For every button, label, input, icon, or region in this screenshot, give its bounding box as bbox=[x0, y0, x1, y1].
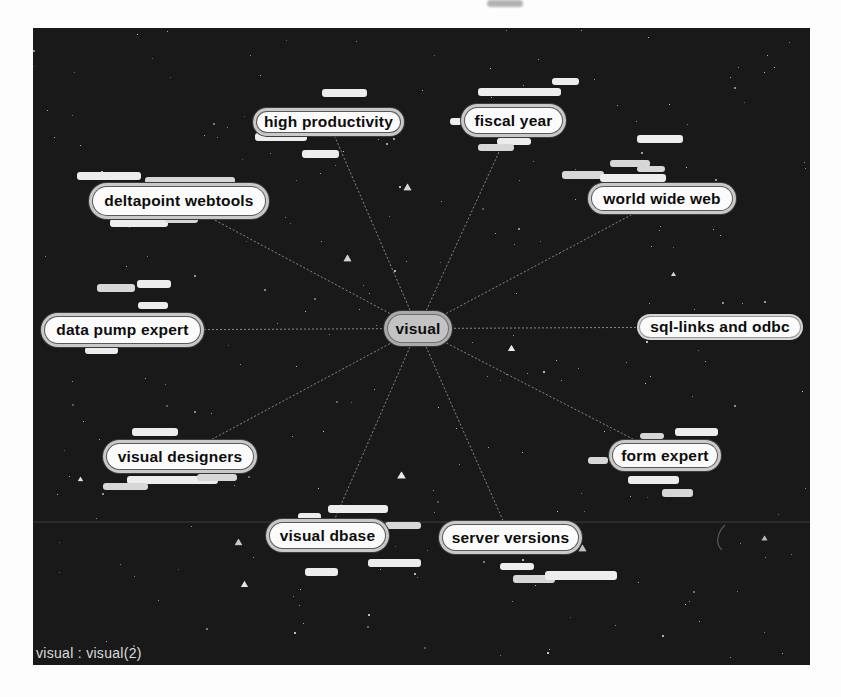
node-deltapoint-webtools[interactable]: deltapoint webtools bbox=[93, 187, 265, 215]
screenshot-root: { "window": { "status_text": "visual : v… bbox=[0, 0, 841, 697]
node-form-expert[interactable]: form expert bbox=[613, 444, 717, 467]
node-visual-dbase[interactable]: visual dbase bbox=[270, 523, 385, 548]
node-server-versions[interactable]: server versions bbox=[443, 525, 578, 550]
node-visual-center[interactable]: visual bbox=[388, 315, 448, 342]
node-layer: high productivityfiscal yearworld wide w… bbox=[33, 28, 810, 665]
scan-smudge bbox=[487, 0, 523, 7]
node-fiscal-year[interactable]: fiscal year bbox=[465, 108, 562, 133]
starfield-canvas: high productivityfiscal yearworld wide w… bbox=[33, 28, 810, 665]
node-visual-designers[interactable]: visual designers bbox=[107, 444, 253, 469]
node-sql-links-and-odbc[interactable]: sql-links and odbc bbox=[640, 317, 800, 337]
node-data-pump-expert[interactable]: data pump expert bbox=[45, 317, 200, 343]
status-bar: visual : visual(2) bbox=[36, 645, 142, 661]
node-high-productivity[interactable]: high productivity bbox=[257, 112, 400, 132]
node-world-wide-web[interactable]: world wide web bbox=[592, 187, 732, 210]
